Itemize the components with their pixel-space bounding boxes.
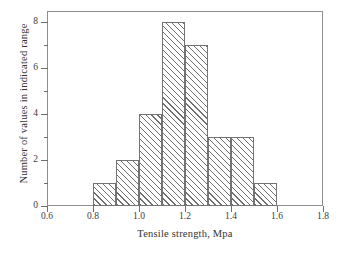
y-axis-tick-major bbox=[41, 68, 48, 69]
histogram-figure: 02468 0.60.81.01.21.41.61.8 Tensile stre… bbox=[0, 0, 346, 255]
y-axis-title: Number of values in indicated range bbox=[18, 6, 29, 201]
y-axis-tick-minor bbox=[44, 137, 48, 138]
y-axis-tick-label: 0 bbox=[18, 201, 38, 211]
histogram-bar bbox=[185, 45, 208, 206]
x-axis-tick-label: 1.0 bbox=[122, 211, 156, 222]
histogram-bar bbox=[254, 183, 277, 206]
histogram-bar bbox=[208, 137, 231, 206]
y-axis-tick-minor bbox=[44, 91, 48, 92]
histogram-bar bbox=[162, 22, 185, 206]
bars-layer bbox=[47, 11, 323, 206]
x-axis-tick-label: 1.4 bbox=[214, 211, 248, 222]
x-axis-title: Tensile strength, Mpa bbox=[47, 228, 323, 239]
y-axis-tick-major bbox=[41, 160, 48, 161]
y-axis-tick-minor bbox=[44, 45, 48, 46]
x-axis-tick-label: 1.2 bbox=[168, 211, 202, 222]
x-axis-tick-label: 0.6 bbox=[30, 211, 64, 222]
y-axis-tick-major bbox=[41, 114, 48, 115]
x-axis-tick-label: 0.8 bbox=[76, 211, 110, 222]
histogram-bar bbox=[231, 137, 254, 206]
histogram-bar bbox=[93, 183, 116, 206]
y-axis-tick-minor bbox=[44, 183, 48, 184]
histogram-bar bbox=[116, 160, 139, 206]
x-axis-tick-label: 1.6 bbox=[260, 211, 294, 222]
y-axis-tick-major bbox=[41, 22, 48, 23]
histogram-bar bbox=[139, 114, 162, 206]
x-axis-tick-label: 1.8 bbox=[306, 211, 340, 222]
